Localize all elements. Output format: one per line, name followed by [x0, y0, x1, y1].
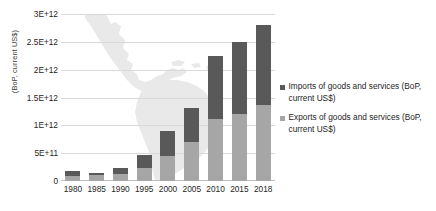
bar-segment-imports[interactable]: [232, 42, 247, 114]
bar-group[interactable]: [137, 14, 152, 181]
bar-segment-exports[interactable]: [65, 176, 80, 181]
x-axis-tick-label: 1985: [85, 184, 109, 200]
y-axis-tick-label: 2.5E+12: [14, 37, 58, 47]
bar-segment-imports[interactable]: [208, 56, 223, 118]
bar-group[interactable]: [232, 14, 247, 181]
bar-segment-exports[interactable]: [232, 114, 247, 181]
legend-swatch-exports-icon: [280, 116, 285, 121]
bar-group[interactable]: [256, 14, 271, 181]
bar-segment-exports[interactable]: [89, 175, 104, 181]
stacked-bar-chart: (BoP, current US$) 3E+12 2.5E+12 2E+12 1…: [0, 0, 436, 211]
legend-entry-imports[interactable]: Imports of goods and services (BoP, curr…: [280, 81, 432, 104]
bar-segment-imports[interactable]: [160, 131, 175, 156]
x-axis-tick-label: 1995: [132, 184, 156, 200]
x-axis-tick-label: 2000: [156, 184, 180, 200]
x-axis-tick-label: 1980: [61, 184, 85, 200]
y-axis-tick-label: 1.5E+12: [14, 93, 58, 103]
x-axis-tick-label: 2005: [180, 184, 204, 200]
y-axis-tick-label: 0: [14, 176, 58, 186]
bar-segment-exports[interactable]: [256, 105, 271, 181]
chart-legend: Imports of goods and services (BoP, curr…: [280, 81, 432, 143]
bar-group[interactable]: [184, 14, 199, 181]
bar-group[interactable]: [89, 14, 104, 181]
bar-segment-imports[interactable]: [256, 25, 271, 105]
legend-swatch-imports-icon: [280, 85, 285, 90]
x-axis-tick-label: 1990: [109, 184, 133, 200]
bar-segment-exports[interactable]: [184, 142, 199, 182]
bar-group[interactable]: [160, 14, 175, 181]
x-axis-tick-label: 2010: [204, 184, 228, 200]
y-axis-tick-label: 2E+12: [14, 65, 58, 75]
bar-segment-imports[interactable]: [184, 108, 199, 141]
bar-segment-exports[interactable]: [160, 156, 175, 181]
plot-area: [61, 14, 275, 181]
x-axis-tick-label: 2018: [251, 184, 275, 200]
y-axis-tick-labels: 3E+12 2.5E+12 2E+12 1.5E+12 1E+12 5E+11 …: [14, 0, 58, 211]
bar-group[interactable]: [113, 14, 128, 181]
legend-entry-exports[interactable]: Exports of goods and services (BoP, curr…: [280, 112, 432, 135]
x-axis-tick-label: 2015: [227, 184, 251, 200]
bar-group[interactable]: [208, 14, 223, 181]
legend-label-imports: Imports of goods and services (BoP, curr…: [289, 81, 433, 104]
y-axis-tick-label: 5E+11: [14, 148, 58, 158]
bar-segment-exports[interactable]: [208, 119, 223, 181]
bar-segment-exports[interactable]: [113, 174, 128, 181]
x-axis-tick-labels: 1980 1985 1990 1995 2000 2005 2010 2015 …: [61, 184, 275, 200]
bar-group[interactable]: [65, 14, 80, 181]
bar-segment-imports[interactable]: [137, 155, 152, 168]
legend-label-exports: Exports of goods and services (BoP, curr…: [289, 112, 433, 135]
y-axis-tick-label: 3E+12: [14, 9, 58, 19]
bar-series-container: [61, 14, 275, 181]
bar-segment-exports[interactable]: [137, 168, 152, 181]
y-axis-tick-label: 1E+12: [14, 120, 58, 130]
